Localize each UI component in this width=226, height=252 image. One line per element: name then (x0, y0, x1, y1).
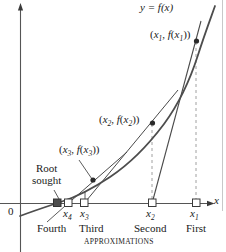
root-marker (54, 199, 62, 207)
x4-marker (65, 199, 73, 207)
approximation-label-fourth: Fourth (37, 223, 66, 235)
point-x2-dot (150, 120, 155, 125)
x-axis (0, 201, 215, 207)
point-x3-dot (90, 177, 95, 182)
approximation-label-second: Second (134, 223, 166, 235)
approximation-label-third: Third (79, 223, 103, 235)
approximation-label-first: First (186, 223, 206, 235)
newton-method-figure: y = f(x) (x1, f(x1)) (x2, f(x2)) (x3, f(… (0, 0, 226, 252)
x3-marker (81, 199, 89, 207)
axis-markers (54, 199, 201, 207)
root-sought-line2: sought (32, 175, 61, 187)
point-label-x3: (x3, f(x3)) (59, 144, 99, 158)
curve-label-y-equals-fx: y = f(x) (140, 2, 173, 14)
root-sought-line1: Root (32, 163, 61, 175)
point-label-x2: (x2, f(x2)) (99, 114, 139, 128)
tick-label-x2: x2 (146, 208, 155, 222)
tick-label-x1: x1 (190, 208, 199, 222)
x2-marker (149, 199, 157, 207)
tick-label-x3: x3 (80, 208, 89, 222)
x-axis-label: x (214, 195, 219, 207)
p3-leader-line (79, 160, 92, 179)
x1-marker (193, 199, 201, 207)
point-x1-dot (194, 38, 199, 43)
approximations-caption: APPROXIMATIONS (84, 238, 154, 246)
root-sought-label: Root sought (32, 163, 61, 186)
tick-label-x4: x4 (63, 208, 72, 222)
curve-points (90, 38, 199, 182)
root-leader-line (54, 190, 59, 199)
point-label-x1: (x1, f(x1)) (150, 29, 190, 43)
origin-label: 0 (8, 206, 14, 218)
